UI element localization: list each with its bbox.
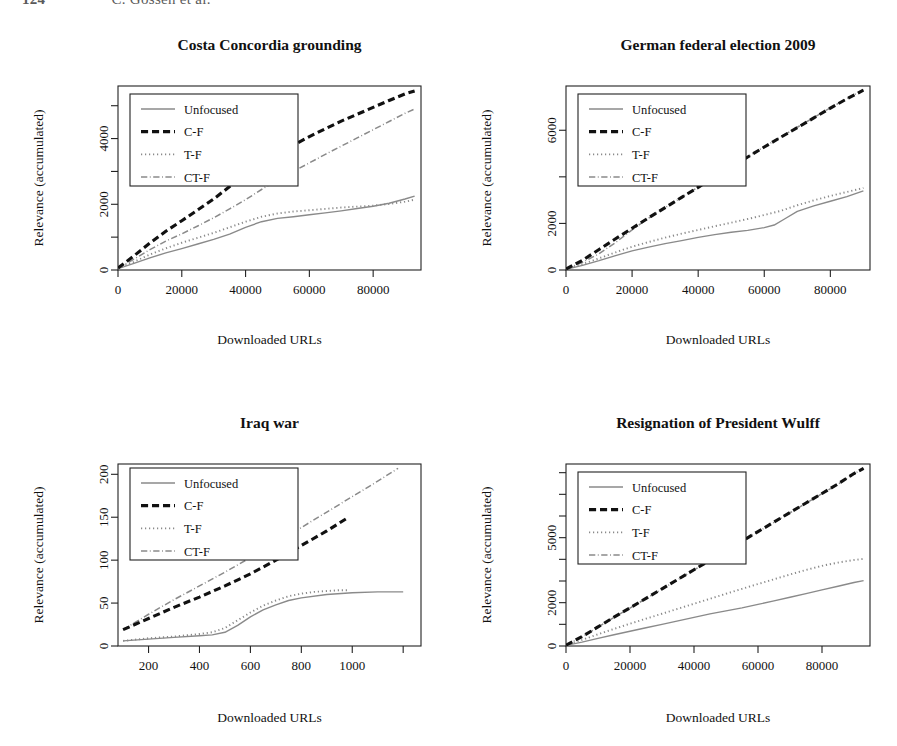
x-axis-label: Downloaded URLs: [666, 332, 771, 347]
chart-title: Resignation of President Wulff: [616, 414, 821, 431]
legend-label-ct-f: CT-F: [184, 545, 210, 559]
x-tick-label: 400: [190, 658, 210, 673]
x-tick-label: 20000: [614, 658, 647, 673]
y-tick-label: 150: [96, 507, 111, 527]
legend-label-t-f: T-F: [184, 522, 202, 536]
x-tick-label: 20000: [166, 282, 199, 297]
chart-title: Iraq war: [240, 414, 299, 431]
legend-label-ct-f: CT-F: [632, 549, 658, 563]
chart-panel-resignation-of-president-wulff: Resignation of President Wulff0200004000…: [448, 366, 897, 746]
x-tick-label: 600: [241, 658, 261, 673]
y-axis-label: Relevance (accumulated): [479, 110, 494, 247]
legend-label-t-f: T-F: [632, 526, 650, 540]
x-tick-label: 0: [115, 282, 122, 297]
series-line-unfocused: [566, 191, 863, 269]
x-tick-label: 40000: [229, 282, 262, 297]
y-tick-label: 4000: [96, 126, 111, 152]
y-tick-label: 2000: [96, 191, 111, 217]
y-tick-label: 2000: [544, 210, 559, 236]
y-tick-label: 0: [96, 267, 111, 274]
x-tick-label: 80000: [357, 282, 390, 297]
y-tick-label: 0: [96, 643, 111, 650]
series-line-unfocused: [123, 592, 403, 641]
y-axis-label: Relevance (accumulated): [31, 487, 46, 624]
x-tick-label: 40000: [678, 658, 711, 673]
x-tick-label: 0: [563, 658, 570, 673]
chart-svg-2: Iraq war2004006008001000050100150200Down…: [0, 366, 448, 746]
legend-label-ct-f: CT-F: [184, 171, 210, 185]
y-tick-label: 0: [544, 643, 559, 650]
chart-panel-costa-concordia-grounding: Costa Concordia grounding020000400006000…: [0, 14, 448, 366]
chart-title: German federal election 2009: [621, 36, 816, 53]
legend-label-c-f: C-F: [632, 503, 652, 517]
legend-label-c-f: C-F: [184, 125, 204, 139]
y-tick-label: 100: [96, 550, 111, 570]
legend-label-unfocused: Unfocused: [184, 103, 239, 117]
x-tick-label: 60000: [748, 282, 781, 297]
series-line-unfocused: [566, 581, 864, 646]
x-axis-label: Downloaded URLs: [666, 710, 771, 725]
chart-svg-3: Resignation of President Wulff0200004000…: [448, 366, 897, 746]
x-tick-label: 60000: [293, 282, 326, 297]
x-tick-label: 0: [563, 282, 570, 297]
x-axis-label: Downloaded URLs: [217, 332, 322, 347]
chart-title: Costa Concordia grounding: [177, 36, 361, 53]
chart-panel-iraq-war: Iraq war2004006008001000050100150200Down…: [0, 366, 448, 746]
legend-label-unfocused: Unfocused: [632, 481, 687, 495]
legend-label-c-f: C-F: [632, 125, 652, 139]
chart-panel-german-federal-election-2009: German federal election 2009020000400006…: [448, 14, 897, 366]
legend-label-t-f: T-F: [632, 148, 650, 162]
chart-svg-0: Costa Concordia grounding020000400006000…: [0, 14, 448, 366]
legend-label-ct-f: CT-F: [632, 171, 658, 185]
y-axis-label: Relevance (accumulated): [31, 110, 46, 247]
x-axis-label: Downloaded URLs: [217, 710, 322, 725]
chart-svg-1: German federal election 2009020000400006…: [448, 14, 897, 366]
x-tick-label: 1000: [339, 658, 365, 673]
y-tick-label: 5000: [544, 525, 559, 551]
x-tick-label: 800: [292, 658, 312, 673]
legend-label-unfocused: Unfocused: [184, 477, 239, 491]
figure-panel-grid: Costa Concordia grounding020000400006000…: [0, 14, 897, 746]
y-tick-label: 2000: [544, 590, 559, 616]
x-tick-label: 40000: [682, 282, 715, 297]
x-tick-label: 200: [139, 658, 159, 673]
y-tick-label: 6000: [544, 117, 559, 143]
series-line-t-f: [566, 559, 864, 645]
running-authors: C. Gossen et al.: [111, 0, 210, 8]
y-tick-label: 200: [96, 465, 111, 485]
page-folio: 124: [22, 0, 45, 8]
legend-label-c-f: C-F: [184, 499, 204, 513]
legend-label-t-f: T-F: [184, 148, 202, 162]
x-tick-label: 60000: [742, 658, 775, 673]
y-tick-label: 50: [96, 597, 111, 610]
y-tick-label: 0: [544, 267, 559, 274]
page-running-header: 124 C. Gossen et al.: [0, 0, 897, 14]
x-tick-label: 80000: [806, 658, 839, 673]
x-tick-label: 20000: [616, 282, 649, 297]
legend-label-unfocused: Unfocused: [632, 103, 687, 117]
x-tick-label: 80000: [814, 282, 847, 297]
y-axis-label: Relevance (accumulated): [479, 487, 494, 624]
